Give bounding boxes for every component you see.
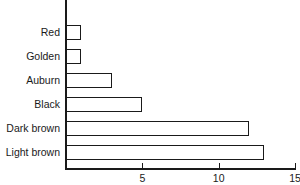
x-tick <box>142 163 143 169</box>
bar-chart: Red Golden Auburn Black Dark brown Light… <box>0 0 300 185</box>
category-label-light-brown: Light brown <box>6 144 60 161</box>
x-axis-line <box>65 168 296 170</box>
x-tick <box>219 163 220 169</box>
x-tick-label: 5 <box>139 172 145 184</box>
category-label-black: Black <box>34 96 60 113</box>
bar-black <box>66 97 142 112</box>
x-tick-label: 15 <box>289 172 300 184</box>
bar-light-brown <box>66 145 264 160</box>
category-label-auburn: Auburn <box>26 72 60 89</box>
category-label-red: Red <box>41 24 60 41</box>
bar-red <box>66 25 81 40</box>
category-label-dark-brown: Dark brown <box>6 120 60 137</box>
bar-golden <box>66 49 81 64</box>
x-tick-label: 10 <box>213 172 225 184</box>
bar-dark-brown <box>66 121 249 136</box>
category-label-golden: Golden <box>26 48 60 65</box>
bar-auburn <box>66 73 112 88</box>
x-tick <box>295 163 296 169</box>
